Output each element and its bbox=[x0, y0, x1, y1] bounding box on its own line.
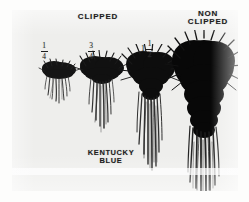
figure-root: CLIPPED NON CLIPPED KENTUCKY BLUE 1 4 3 … bbox=[0, 0, 249, 202]
fraction-numerator: 1 bbox=[42, 42, 46, 50]
fraction-one-half: 1 2 bbox=[146, 40, 153, 58]
fraction-three-quarters: 3 4 bbox=[88, 42, 95, 60]
height-label-three-quarter-inch: 3 4 bbox=[81, 42, 101, 60]
clipped-header: CLIPPED bbox=[60, 13, 136, 21]
fraction-one-quarter: 1 4 bbox=[41, 42, 48, 60]
photograph-plate: CLIPPED NON CLIPPED KENTUCKY BLUE 1 4 3 … bbox=[12, 10, 238, 191]
height-label-quarter-inch: 1 4 bbox=[34, 42, 54, 60]
fraction-denominator: 4 bbox=[42, 52, 46, 60]
whole-number: 1 bbox=[141, 45, 145, 53]
fraction-denominator: 4 bbox=[89, 52, 93, 60]
non-clipped-header: NON CLIPPED bbox=[178, 10, 238, 27]
fraction-numerator: 3 bbox=[89, 42, 93, 50]
height-label-one-and-half-inch: 1 1 2 bbox=[133, 40, 161, 58]
fraction-denominator: 2 bbox=[148, 50, 152, 58]
fraction-numerator: 1 bbox=[148, 40, 152, 48]
species-caption: KENTUCKY BLUE bbox=[74, 149, 148, 165]
